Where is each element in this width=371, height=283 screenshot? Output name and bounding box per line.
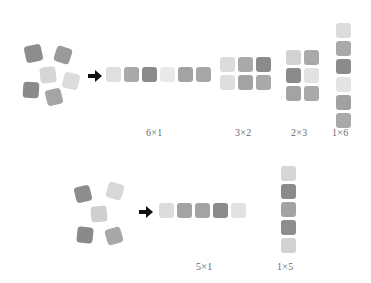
arrangement-3x2-tile-3	[256, 57, 271, 72]
arrangement-5x1-tile-4	[213, 203, 228, 218]
scattered-group-five-tile-1	[73, 184, 92, 203]
arrangement-2x3-tile-4	[304, 68, 319, 83]
arrangement-3x2-tile-4	[220, 75, 235, 90]
scattered-group-six-tile-3	[39, 66, 57, 84]
arrangement-1x6-tile-3	[336, 59, 351, 74]
scattered-group-five-tile-4	[76, 226, 94, 244]
arrangement-1x6-tile-4	[336, 77, 351, 92]
arrangement-6x1-tile-6	[196, 67, 211, 82]
arrangement-1x5-tile-2	[281, 184, 296, 199]
arrangement-1x5-label: 1×5	[277, 261, 294, 272]
arrangement-6x1-tile-3	[142, 67, 157, 82]
arrangement-5x1-tile-5	[231, 203, 246, 218]
arrangement-1x5-tile-3	[281, 202, 296, 217]
arrangement-5x1-tile-2	[177, 203, 192, 218]
arrangement-6x1-tile-5	[178, 67, 193, 82]
transform-arrow-six	[88, 70, 102, 82]
arrangement-3x2-label: 3×2	[235, 127, 252, 138]
arrangement-1x6-tile-2	[336, 41, 351, 56]
arrangement-2x3-tile-6	[304, 86, 319, 101]
arrangement-1x6-tile-5	[336, 95, 351, 110]
scattered-group-six-tile-2	[53, 45, 73, 65]
transform-arrow-five	[139, 206, 153, 218]
scattered-group-six-tile-4	[61, 71, 80, 90]
arrangement-1x5-tile-4	[281, 220, 296, 235]
scattered-group-six-tile-5	[22, 81, 39, 98]
arrangement-3x2-tile-2	[238, 57, 253, 72]
arrangement-6x1-label: 6×1	[146, 127, 163, 138]
arrangement-1x6-tile-1	[336, 23, 351, 38]
arrangement-2x3-tile-5	[286, 86, 301, 101]
arrangement-5x1-tile-1	[159, 203, 174, 218]
scattered-group-six-tile-6	[44, 87, 63, 106]
arrangement-5x1-tile-3	[195, 203, 210, 218]
arrangement-2x3-label: 2×3	[291, 127, 308, 138]
arrangement-3x2-tile-1	[220, 57, 235, 72]
arrangement-2x3-tile-2	[304, 50, 319, 65]
scattered-group-six-tile-1	[23, 43, 43, 63]
arrangement-3x2-tile-5	[238, 75, 253, 90]
arrangement-2x3-tile-3	[286, 68, 301, 83]
arrangement-1x5-tile-5	[281, 238, 296, 253]
scattered-group-five-tile-2	[105, 181, 125, 201]
arrangement-1x6-label: 1×6	[332, 127, 349, 138]
scattered-group-five-tile-3	[90, 205, 107, 222]
arrangement-6x1-tile-2	[124, 67, 139, 82]
diagram-canvas: 6×13×22×31×65×11×5	[0, 0, 371, 283]
arrow-head-icon	[146, 206, 153, 218]
arrangement-2x3-tile-1	[286, 50, 301, 65]
scattered-group-five-tile-5	[104, 226, 124, 246]
arrangement-6x1-tile-1	[106, 67, 121, 82]
arrow-head-icon	[95, 70, 102, 82]
arrangement-1x6-tile-6	[336, 113, 351, 128]
arrangement-6x1-tile-4	[160, 67, 175, 82]
arrangement-5x1-label: 5×1	[196, 261, 213, 272]
arrangement-3x2-tile-6	[256, 75, 271, 90]
arrangement-1x5-tile-1	[281, 166, 296, 181]
